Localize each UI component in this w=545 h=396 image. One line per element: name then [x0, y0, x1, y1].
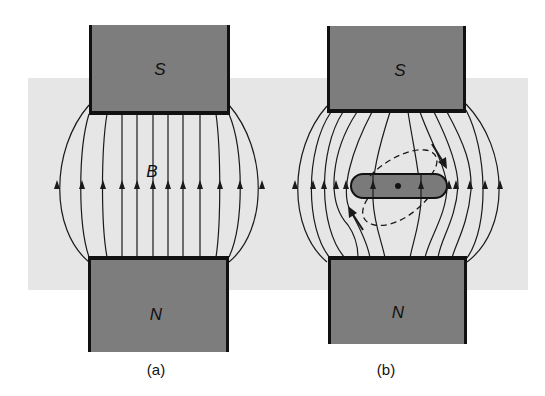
bar-dipole: [351, 174, 452, 198]
caption-b: (b): [377, 361, 395, 378]
magnet-north-b: N: [328, 256, 467, 344]
pivot-dot: [395, 183, 401, 189]
field-label-b: B: [146, 162, 157, 181]
magnet-south-a: S: [89, 25, 230, 115]
magnet-label-n-b: N: [392, 303, 405, 322]
magnetic-field-figure: B S N (a): [0, 0, 545, 396]
magnet-label-s-a: S: [154, 60, 166, 79]
magnet-south-b: S: [327, 26, 466, 113]
magnet-label-n-a: N: [150, 305, 163, 324]
magnet-label-s-b: S: [394, 61, 406, 80]
magnet-north-a: N: [88, 256, 229, 352]
caption-a: (a): [147, 361, 165, 378]
